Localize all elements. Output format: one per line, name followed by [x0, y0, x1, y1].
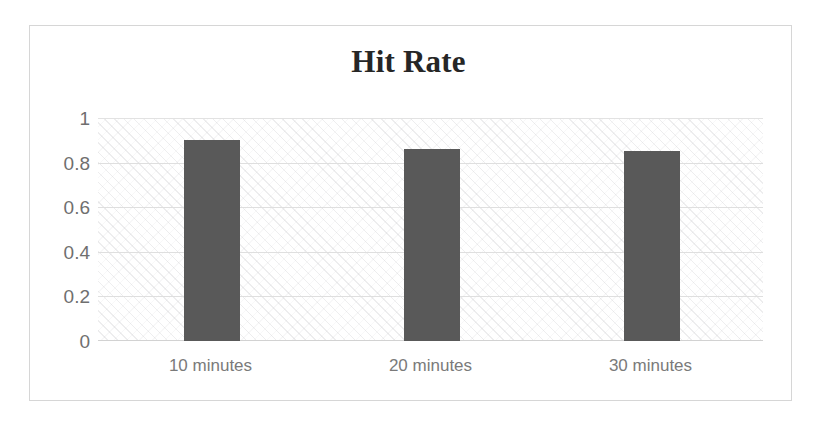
- plot-area: [98, 118, 763, 341]
- x-axis-tick-label: 10 minutes: [100, 355, 321, 377]
- chart-figure: Hit Rate 1 0.8 0.6 0.4 0.2 0 10 minutes …: [0, 0, 817, 425]
- bar-30-minutes: [624, 151, 680, 341]
- bar-20-minutes: [404, 149, 460, 341]
- y-axis-tick-label: 0.2: [30, 287, 90, 306]
- x-axis-tick-label: 20 minutes: [320, 355, 541, 377]
- bar-10-minutes: [184, 140, 240, 341]
- gridline-1.0: [98, 118, 763, 119]
- y-axis-tick-label: 1: [30, 109, 90, 128]
- y-axis: 1 0.8 0.6 0.4 0.2 0: [28, 118, 90, 341]
- y-axis-tick-label: 0: [30, 332, 90, 351]
- x-axis-tick-label: 30 minutes: [540, 355, 761, 377]
- chart-title: Hit Rate: [0, 44, 817, 80]
- y-axis-tick-label: 0.8: [30, 154, 90, 173]
- y-axis-tick-label: 0.6: [30, 198, 90, 217]
- y-axis-tick-label: 0.4: [30, 243, 90, 262]
- x-axis: 10 minutes 20 minutes 30 minutes: [98, 355, 763, 381]
